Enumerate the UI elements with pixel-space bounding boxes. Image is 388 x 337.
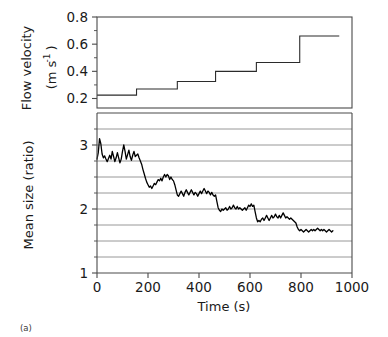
time-tick-label: 1000 (335, 279, 369, 295)
mean-size-axis-label: Mean size (ratio) (21, 140, 36, 249)
time-tick-label: 200 (135, 279, 161, 295)
time-tick-label: 0 (93, 279, 102, 295)
mean-size-tick-label: 2 (79, 201, 88, 217)
time-tick-label: 600 (237, 279, 263, 295)
time-tick-label: 400 (186, 279, 212, 295)
time-axis-label: Time (s) (197, 299, 251, 314)
mean-size-tick-label: 3 (79, 137, 88, 153)
mean-size-tick-label: 1 (79, 265, 88, 281)
flow-velocity-axis-label-exponent: -1 (42, 54, 52, 63)
chart-svg: 0.20.40.60.8 Flow velocity (m s -1 ) 123… (0, 0, 388, 337)
flow-velocity-tick-label: 0.2 (67, 90, 88, 106)
flow-velocity-tick-label: 0.4 (67, 63, 88, 79)
figure-container: 0.20.40.60.8 Flow velocity (m s -1 ) 123… (0, 0, 388, 337)
flow-velocity-axis-label-paren: ) (44, 45, 59, 50)
flow-velocity-tick-label: 0.6 (67, 36, 88, 52)
flow-velocity-axis-label-line1: Flow velocity (19, 25, 34, 110)
time-tick-label: 800 (288, 279, 314, 295)
flow-velocity-tick-label: 0.8 (67, 9, 88, 25)
flow-velocity-axis-label-line2: (m s (44, 60, 59, 89)
figure-caption: (a) (20, 323, 32, 333)
